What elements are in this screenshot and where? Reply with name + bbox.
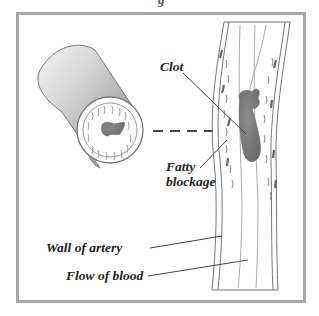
artery-illustration (0, 0, 319, 316)
label-flow-of-blood: Flow of blood (66, 269, 143, 283)
label-clot: Clot (160, 60, 183, 74)
cross-section-cylinder (38, 45, 143, 168)
clot-longitudinal (239, 89, 260, 162)
label-fatty-line2: blockage (166, 175, 216, 189)
label-wall-of-artery: Wall of artery (46, 241, 122, 255)
label-fatty-line1: Fatty (166, 160, 195, 174)
